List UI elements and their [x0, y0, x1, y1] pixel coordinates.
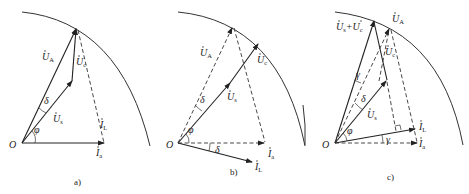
angle-delta-arc — [355, 103, 363, 110]
voltage-limit-arc — [178, 12, 305, 146]
label-Us: Us — [53, 113, 63, 125]
angle-delta-arc — [195, 105, 202, 111]
phasor-Us-plus-Uc — [335, 21, 374, 143]
voltage-limit-arc — [22, 12, 150, 146]
phasor-Us — [335, 81, 386, 143]
angle-phi-arc — [186, 134, 189, 143]
origin-label: O — [166, 139, 173, 150]
label-gamma: γ — [356, 69, 361, 80]
dashed-perpendicular — [387, 82, 396, 131]
caption-b: b) — [230, 167, 238, 177]
label-Ia: Ia — [95, 147, 102, 159]
caption-a: a) — [74, 177, 81, 187]
label-IL: IL — [254, 161, 262, 173]
label-delta: δ — [44, 95, 49, 106]
label-IL: IL — [418, 121, 426, 133]
phasor-diagram-figure: O UA Uc Us IL Ia δ φ a) O UA Uc Us Ia IL… — [0, 0, 469, 194]
label-Ia: Ia — [267, 148, 274, 160]
label-UA: UA — [42, 51, 54, 63]
phasor-Us — [178, 83, 230, 143]
angle-delta2-arc — [209, 143, 210, 151]
label-Ia: Ia — [418, 138, 425, 150]
label-Us: Us — [227, 91, 237, 103]
label-Us: Us — [367, 109, 377, 121]
angle-delta-arc — [39, 108, 46, 113]
panel-a: O UA Uc Us IL Ia δ φ a) — [9, 12, 150, 187]
label-phi: φ — [188, 124, 194, 135]
phasor-Uc — [230, 44, 258, 83]
origin-label: O — [322, 139, 329, 150]
phasor-UA — [178, 28, 232, 143]
label-phi: φ — [347, 125, 353, 136]
label-UA: UA — [392, 13, 404, 25]
caption-c: c) — [387, 172, 394, 182]
label-delta2: δ — [215, 144, 220, 155]
dashed-connector-UA — [391, 30, 417, 142]
panel-b: O UA Uc Us Ia IL δ φ δ b) — [166, 12, 305, 177]
label-phi: φ — [34, 124, 40, 135]
label-delta: δ — [361, 93, 366, 104]
label-IL: IL — [99, 119, 107, 131]
panel-c: O Us+Uc UA Uc Us IL Ia γ δ φ γ c) — [303, 12, 463, 182]
label-UA: UA — [200, 47, 212, 59]
phasor-dots — [44, 12, 421, 161]
label-Uc: Uc — [385, 46, 395, 58]
label-Us-plus-Uc: Us+Uc — [336, 21, 363, 33]
dashed-connector — [234, 28, 265, 142]
phasor-UA — [335, 29, 389, 143]
label-delta: δ — [200, 94, 205, 105]
origin-label: O — [9, 139, 16, 150]
angle-gamma2-arc — [382, 135, 383, 143]
